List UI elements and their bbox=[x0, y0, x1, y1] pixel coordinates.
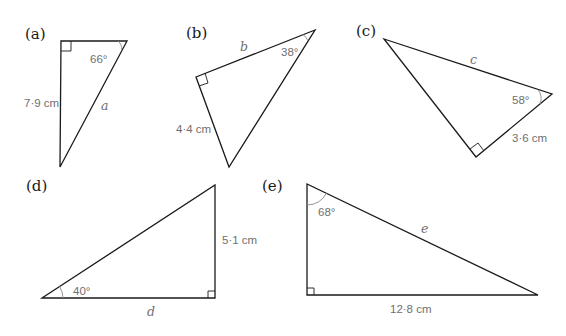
angle-label-e: 68° bbox=[318, 206, 335, 218]
unknown-side-c: c bbox=[470, 52, 477, 67]
triangle-d-outline bbox=[42, 185, 215, 298]
given-side-a: 7·9 cm bbox=[24, 97, 59, 109]
angle-arc-b bbox=[303, 35, 308, 42]
given-side-c: 3·6 cm bbox=[512, 132, 547, 144]
triangle-e-outline bbox=[307, 184, 538, 295]
right-triangles-figure: (a) 66° 7·9 cm a (b) 38° b 4·4 cm (c) c … bbox=[0, 0, 566, 336]
angle-arc-e bbox=[307, 193, 327, 205]
given-side-d: 5·1 cm bbox=[222, 234, 257, 246]
unknown-side-a: a bbox=[101, 98, 108, 113]
panel-label-a: (a) bbox=[25, 25, 46, 43]
panel-label-c: (c) bbox=[356, 22, 376, 40]
unknown-side-e: e bbox=[421, 221, 428, 236]
given-side-e: 12·8 cm bbox=[390, 303, 432, 315]
triangle-b: (b) 38° b 4·4 cm bbox=[176, 24, 315, 167]
angle-arc-a bbox=[118, 41, 122, 51]
triangle-c: (c) c 58° 3·6 cm bbox=[356, 22, 552, 157]
right-angle-marker-d bbox=[208, 291, 215, 298]
triangle-d: (d) 40° 5·1 cm d bbox=[26, 177, 257, 319]
panel-label-b: (b) bbox=[186, 24, 207, 42]
angle-label-a: 66° bbox=[90, 53, 107, 65]
unknown-side-b: b bbox=[240, 39, 248, 54]
angle-label-b: 38° bbox=[281, 46, 298, 58]
given-side-b: 4·4 cm bbox=[176, 123, 211, 135]
angle-label-d: 40° bbox=[73, 285, 90, 297]
right-angle-marker-c bbox=[470, 143, 484, 151]
triangle-e: (e) 68° e 12·8 cm bbox=[262, 177, 538, 315]
right-angle-marker-a bbox=[61, 41, 71, 51]
right-angle-marker-e bbox=[307, 288, 314, 295]
angle-arc-c bbox=[538, 90, 541, 105]
angle-label-c: 58° bbox=[512, 94, 529, 106]
panel-label-e: (e) bbox=[262, 177, 283, 195]
angle-arc-d bbox=[60, 287, 64, 299]
unknown-side-d: d bbox=[147, 304, 155, 319]
triangle-a: (a) 66° 7·9 cm a bbox=[24, 25, 127, 167]
panel-label-d: (d) bbox=[26, 177, 47, 195]
